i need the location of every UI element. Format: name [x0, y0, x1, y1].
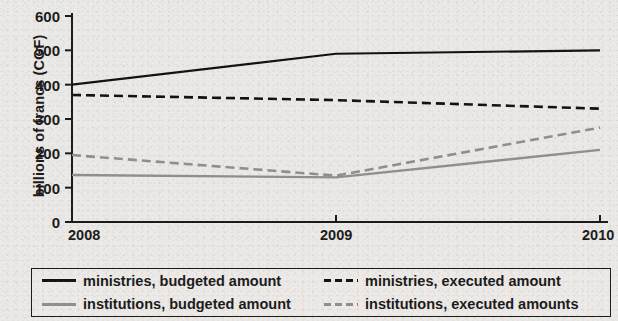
legend-item-label: ministries, budgeted amount	[83, 273, 281, 289]
chart-legend: ministries, budgeted amountministries, e…	[31, 268, 611, 317]
legend-item: ministries, executed amount	[324, 273, 606, 289]
legend-item: institutions, executed amounts	[324, 296, 606, 312]
line-chart: billions of francs (CGF) 010020030040050…	[0, 0, 618, 321]
legend-item: ministries, budgeted amount	[42, 273, 324, 289]
axis-lines	[65, 13, 608, 222]
series-lines	[72, 50, 600, 177]
series-line	[72, 50, 600, 84]
series-line	[72, 128, 600, 176]
series-line	[72, 95, 600, 109]
series-line	[72, 150, 600, 177]
legend-item-label: institutions, executed amounts	[365, 296, 579, 312]
legend-item-label: ministries, executed amount	[365, 273, 561, 289]
legend-item: institutions, budgeted amount	[42, 296, 324, 312]
legend-item-label: institutions, budgeted amount	[83, 296, 291, 312]
